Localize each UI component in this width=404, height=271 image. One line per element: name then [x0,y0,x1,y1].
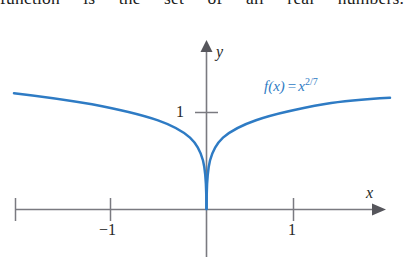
function-equation-label: f(x)=x2/7 [264,79,318,94]
x-tick-label-neg-1: −1 [99,222,116,238]
curve-right-branch [207,98,390,209]
function-variable: x [298,78,305,94]
y-axis-label: y [216,44,223,60]
function-exponent: 2/7 [305,76,318,87]
function-notation: f(x) [264,78,285,94]
equals-sign: = [288,78,296,94]
y-tick-label-1: 1 [176,104,184,120]
function-plot [0,0,404,271]
x-tick-label-1: 1 [288,222,296,238]
x-axis-label: x [366,185,373,201]
figure-container: function is the set of all real numbers.… [0,0,404,271]
x-axis-arrow-icon [372,204,386,216]
y-axis-arrow-icon [201,40,213,52]
